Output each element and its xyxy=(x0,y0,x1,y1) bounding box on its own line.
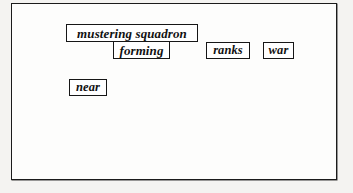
word-box-ranks[interactable]: ranks xyxy=(206,42,250,59)
figure-frame: mustering squadron forming ranks war nea… xyxy=(11,3,337,180)
word-box-forming[interactable]: forming xyxy=(113,41,170,59)
word-label-forming: forming xyxy=(119,43,163,56)
word-box-canvas: mustering squadron forming ranks war nea… xyxy=(12,4,336,179)
word-box-war[interactable]: war xyxy=(263,42,294,59)
word-label-near: near xyxy=(76,81,100,94)
word-label-ranks: ranks xyxy=(213,44,243,57)
scanned-page-background: mustering squadron forming ranks war nea… xyxy=(0,0,353,193)
word-box-near[interactable]: near xyxy=(69,79,107,96)
word-label-mustering-squadron: mustering squadron xyxy=(77,26,187,39)
word-box-mustering-squadron[interactable]: mustering squadron xyxy=(66,24,198,42)
word-label-war: war xyxy=(269,44,289,57)
